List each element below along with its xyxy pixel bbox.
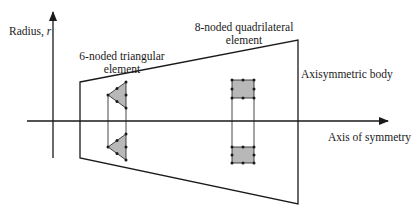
- radius-axis-label: Radius, r: [9, 25, 51, 38]
- quadrilateral-element-label: 8-noded quadrilateral element: [192, 21, 296, 47]
- quadrilateral-element-label-line2: element: [192, 34, 296, 47]
- quadrilateral-element-upper: [232, 80, 254, 98]
- triangular-element-lower: [108, 134, 126, 160]
- quadrilateral-element-lower: [232, 147, 254, 163]
- radius-axis-label-text: Radius,: [9, 25, 47, 37]
- triangular-element-label-line2: element: [72, 63, 172, 76]
- radius-symbol: r: [47, 25, 51, 37]
- triangular-element-label-line1: 6-noded triangular: [72, 50, 172, 63]
- symmetry-axis-label: Axis of symmetry: [328, 131, 411, 144]
- body-label: Axisymmetric body: [301, 68, 393, 81]
- quadrilateral-element-label-line1: 8-noded quadrilateral: [192, 21, 296, 34]
- triangular-element-label: 6-noded triangular element: [72, 50, 172, 76]
- triangular-element-upper: [108, 82, 126, 108]
